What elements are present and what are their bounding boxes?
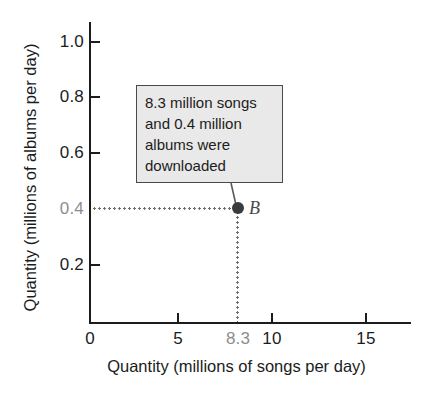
annotation-callout-text: 8.3 million songs and 0.4 million albums… bbox=[145, 92, 282, 176]
y-tick-mark-1.0 bbox=[91, 41, 100, 43]
y-tick-label-1.0: 1.0 bbox=[42, 32, 84, 52]
x-tick-label-10: 10 bbox=[249, 329, 295, 349]
y-tick-mark-0.2 bbox=[91, 264, 100, 266]
x-axis-line bbox=[89, 322, 411, 324]
y-tick-label-0.4: 0.4 bbox=[42, 199, 84, 219]
chart-figure: 1.0 0.8 0.6 0.4 0.2 0 5 8.3 10 15 B 8.3 … bbox=[0, 0, 429, 404]
y-tick-label-0.6: 0.6 bbox=[42, 143, 84, 163]
x-tick-mark-10 bbox=[271, 313, 273, 322]
x-tick-mark-15 bbox=[365, 313, 367, 322]
y-tick-mark-0.6 bbox=[91, 152, 100, 154]
y-tick-mark-0.8 bbox=[91, 96, 100, 98]
y-tick-label-0.8: 0.8 bbox=[42, 87, 84, 107]
x-tick-mark-5 bbox=[177, 313, 179, 322]
annotation-callout-box: 8.3 million songs and 0.4 million albums… bbox=[136, 85, 283, 183]
x-tick-label-5: 5 bbox=[155, 329, 201, 349]
x-axis-title: Quantity (millions of songs per day) bbox=[0, 357, 429, 376]
x-tick-label-15: 15 bbox=[343, 329, 389, 349]
vertical-guide-line bbox=[236, 210, 239, 322]
y-tick-label-0.2: 0.2 bbox=[42, 255, 84, 275]
horizontal-guide-line bbox=[92, 207, 238, 210]
data-point-b bbox=[232, 202, 244, 214]
x-tick-label-0: 0 bbox=[67, 329, 113, 349]
data-point-b-label: B bbox=[249, 198, 260, 219]
y-axis-title: Quantity (millions of albums per day) bbox=[21, 28, 40, 328]
y-axis-line bbox=[89, 22, 91, 324]
